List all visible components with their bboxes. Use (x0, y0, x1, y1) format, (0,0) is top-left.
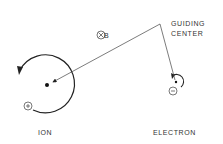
field-label: B (104, 31, 109, 40)
guiding-center-leaders (53, 24, 175, 82)
ion-orbit (17, 55, 74, 113)
electron-label: ELECTRON (153, 128, 196, 137)
ion-guiding-center-dot (45, 83, 49, 87)
ion-label: ION (38, 128, 52, 137)
electron-orbit (169, 73, 184, 95)
guiding-center-label-line1: GUIDING (171, 19, 205, 28)
ion-orbit-arrowhead-icon (17, 66, 23, 75)
guiding-center-label-line2: CENTER (171, 29, 203, 38)
electron-guiding-center-dot (175, 81, 177, 83)
